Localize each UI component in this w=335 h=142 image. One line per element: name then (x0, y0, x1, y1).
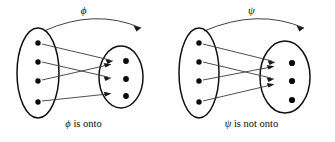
map-arrow-psi-1 (203, 44, 272, 61)
codomain-dot-psi-1 (289, 60, 295, 66)
function-arc-psi (204, 19, 304, 31)
map-arrow-phi-2 (42, 62, 108, 77)
caption-text-phi: is onto (73, 118, 101, 129)
caption-text-psi: is not onto (234, 118, 278, 129)
function-label-psi: ψ (168, 5, 335, 16)
function-label-phi: ϕ (0, 5, 167, 16)
domain-dot-psi-4 (196, 99, 201, 104)
domain-dot-phi-1 (35, 40, 40, 45)
codomain-dot-psi-2 (289, 78, 295, 84)
panel-onto: ϕ ϕ is onto (0, 0, 167, 142)
domain-dot-phi-2 (35, 59, 40, 64)
domain-dot-phi-4 (35, 99, 40, 104)
map-arrow-psi-4-head (267, 83, 275, 88)
figure-root: ϕ ϕ is onto (0, 0, 335, 142)
domain-dot-psi-3 (196, 78, 201, 83)
codomain-dot-phi-3 (123, 93, 129, 99)
map-arrow-psi-3-head (267, 65, 275, 70)
function-arc-phi (44, 19, 141, 31)
map-arrow-phi-3 (42, 65, 108, 80)
map-arrow-phi-4-head (104, 92, 112, 97)
panel-not-onto: ψ ψ is not onto (168, 0, 335, 142)
caption-psi: ψ is not onto (168, 118, 335, 130)
domain-dot-psi-2 (196, 59, 201, 64)
map-arrow-phi-3-head (104, 63, 112, 68)
domain-dot-psi-1 (196, 40, 201, 45)
map-arrow-phi-4 (42, 94, 108, 101)
map-arrow-psi-4 (203, 85, 271, 101)
codomain-dot-psi-3-unmapped (289, 97, 295, 103)
codomain-dot-phi-1 (123, 58, 129, 64)
map-arrow-phi-1 (42, 44, 110, 60)
codomain-dot-phi-2 (123, 76, 129, 82)
domain-dot-phi-3 (35, 78, 40, 83)
map-arrow-phi-1-head (106, 60, 114, 64)
caption-phi: ϕ is onto (0, 118, 167, 130)
